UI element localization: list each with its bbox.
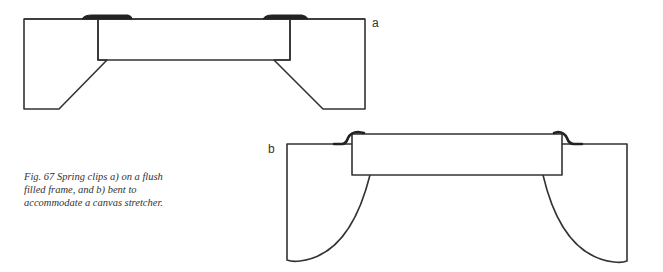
- panel-b-stretcher-frame: [287, 134, 627, 262]
- figure-caption: Fig. 67 Spring clips a) on a flush fille…: [24, 170, 194, 209]
- panel-label-b: b: [268, 142, 275, 156]
- panel-label-a: a: [372, 16, 379, 30]
- diagram-canvas: [0, 0, 663, 272]
- frame-profile-a: [24, 19, 107, 109]
- panel-a-flush-frame: [24, 19, 365, 109]
- frame-profile-a-right: [274, 19, 365, 109]
- inner-panel-a: [98, 19, 290, 60]
- caption-line: Fig. 67 Spring clips a) on a flush: [24, 170, 194, 183]
- spring-clip-a-left: [82, 15, 132, 19]
- frame-profile-b-right: [543, 144, 627, 262]
- canvas-stretcher-b: [352, 134, 562, 175]
- caption-line: accommodate a canvas stretcher.: [24, 196, 194, 209]
- frame-profile-b-left: [287, 144, 370, 261]
- caption-line: filled frame, and b) bent to: [24, 183, 194, 196]
- spring-clip-a-right: [263, 15, 308, 19]
